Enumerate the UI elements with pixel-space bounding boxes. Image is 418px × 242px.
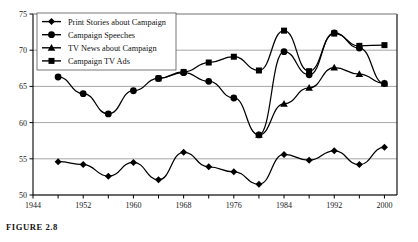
- legend-label: Print Stories about Campaign: [68, 18, 167, 27]
- x-tick-label: 1968: [176, 201, 192, 210]
- data-point-diamond: [230, 168, 237, 175]
- data-point-square: [181, 69, 187, 75]
- chart-legend: Print Stories about CampaignCampaign Spe…: [37, 13, 176, 70]
- x-tick-label: 1992: [326, 201, 342, 210]
- figure-container: 5055606570751944195219601968197619841992…: [0, 0, 418, 242]
- series-diamond: [55, 144, 388, 188]
- data-point-square: [256, 67, 262, 73]
- data-point-diamond: [281, 151, 288, 158]
- data-point-square: [381, 42, 387, 48]
- y-tick-label: 70: [19, 46, 27, 55]
- data-point-square: [156, 75, 162, 81]
- data-point-circle: [80, 90, 87, 97]
- data-point-square: [206, 60, 212, 66]
- data-point-square: [306, 68, 312, 74]
- data-point-triangle: [330, 64, 338, 71]
- x-tick-label: 1960: [125, 201, 141, 210]
- data-point-diamond: [105, 173, 112, 180]
- data-point-square: [356, 43, 362, 49]
- data-point-diamond: [80, 161, 87, 168]
- data-point-diamond: [130, 159, 137, 166]
- y-tick-label: 60: [19, 119, 27, 128]
- x-tick-label: 1944: [25, 201, 41, 210]
- data-point-square: [231, 54, 237, 60]
- data-point-circle: [55, 74, 62, 81]
- x-tick-label: 1976: [226, 201, 242, 210]
- data-point-square: [281, 28, 287, 34]
- data-point-diamond: [356, 161, 363, 168]
- figure-caption: FIGURE 2.8: [6, 222, 58, 232]
- data-point-diamond: [331, 147, 338, 154]
- data-point-circle: [230, 95, 237, 102]
- legend-label: Campaign Speeches: [68, 31, 135, 40]
- circle-marker-icon: [48, 31, 55, 38]
- data-point-circle: [105, 111, 112, 118]
- data-point-square: [331, 31, 337, 37]
- legend-label: TV News about Campaign: [68, 44, 157, 53]
- data-point-diamond: [255, 181, 262, 188]
- data-point-diamond: [155, 176, 162, 183]
- x-tick-label: 1952: [75, 201, 91, 210]
- x-tick-label: 1984: [276, 201, 292, 210]
- data-point-circle: [281, 48, 288, 55]
- y-tick-label: 65: [19, 82, 27, 91]
- square-marker-icon: [49, 58, 55, 64]
- data-point-diamond: [205, 163, 212, 170]
- data-point-diamond: [381, 144, 388, 151]
- data-point-circle: [130, 87, 137, 94]
- legend-label: Campaign TV Ads: [68, 57, 130, 66]
- y-tick-label: 75: [19, 10, 27, 19]
- y-tick-label: 55: [19, 155, 27, 164]
- y-tick-label: 50: [19, 191, 27, 200]
- line-chart: 5055606570751944195219601968197619841992…: [0, 0, 418, 242]
- data-point-circle: [205, 78, 212, 85]
- data-point-diamond: [180, 149, 187, 156]
- x-tick-label: 2000: [376, 201, 392, 210]
- data-point-diamond: [306, 157, 313, 164]
- data-point-diamond: [55, 158, 62, 165]
